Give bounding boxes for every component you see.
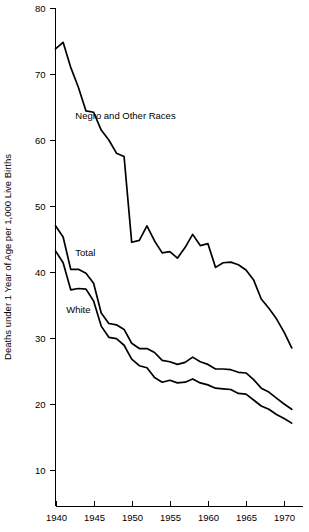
series-label: White [66,304,90,315]
y-tick-label: 60 [35,135,46,146]
series-label: Negro and Other Races [75,110,176,121]
y-axis-tick-labels: 1020304050607080 [35,3,46,476]
y-tick-label: 50 [35,201,46,212]
x-tick-label: 1965 [236,512,257,523]
x-axis-tick-labels: 1940194519501955196019651970 [46,512,295,523]
y-axis-ticks [50,9,56,471]
y-tick-label: 30 [35,333,46,344]
x-tick-label: 1955 [160,512,181,523]
x-axis-ticks [57,501,285,507]
y-tick-label: 10 [35,465,46,476]
x-tick-label: 1940 [46,512,67,523]
x-tick-label: 1945 [84,512,105,523]
y-tick-label: 40 [35,267,46,278]
series-label: Total [75,247,95,258]
series-line [56,42,292,348]
x-tick-label: 1950 [122,512,143,523]
series-line [56,251,292,423]
x-axis: 1940194519501955196019651970 [46,501,303,524]
chart-canvas: 1020304050607080 19401945195019551960196… [0,0,309,532]
y-tick-label: 70 [35,69,46,80]
y-tick-label: 80 [35,3,46,14]
x-tick-label: 1960 [198,512,219,523]
infant-mortality-line-chart: 1020304050607080 19401945195019551960196… [0,0,309,532]
y-axis: 1020304050607080 [35,3,56,506]
series-inline-labels: Negro and Other RacesTotalWhite [66,110,176,315]
x-tick-label: 1970 [274,512,295,523]
y-tick-label: 20 [35,399,46,410]
data-series-lines [56,42,292,423]
y-axis-title: Deaths under 1 Year of Age per 1,000 Liv… [2,154,13,360]
